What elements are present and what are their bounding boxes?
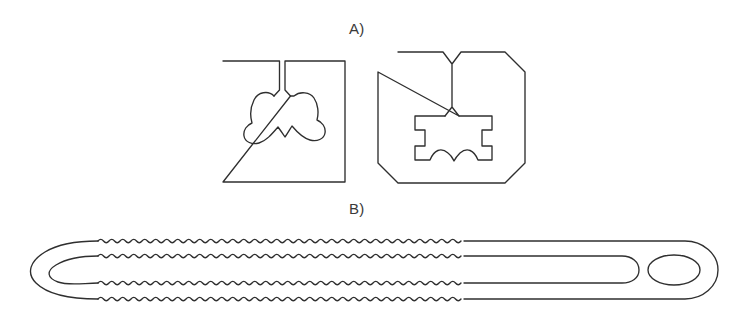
shape-serrated-strap-band <box>30 239 718 300</box>
shape-square-plate-with-tooth-cavity <box>223 61 345 182</box>
shape-octagon-plate-with-tslot-cavity <box>378 52 525 183</box>
oval-through-hole <box>648 255 700 285</box>
line-art-canvas <box>0 0 732 321</box>
figure-root: A) B) <box>0 0 732 321</box>
